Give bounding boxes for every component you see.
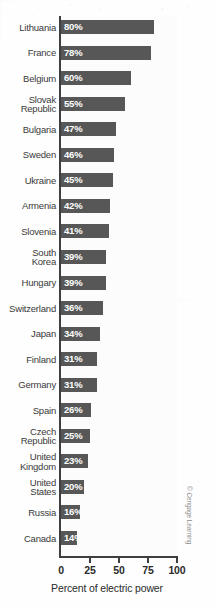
bar: 16% <box>61 505 80 519</box>
bar-row: Hungary39% <box>0 276 214 290</box>
bar-row: Switzerland36% <box>0 301 214 315</box>
bar-row: Lithuania80% <box>0 20 214 34</box>
bar-value-label: 34% <box>64 328 82 340</box>
bar-value-label: 55% <box>64 98 82 110</box>
bar-row: Slovak Republic55% <box>0 97 214 111</box>
bar: 60% <box>61 71 131 85</box>
bar-category-label: Spain <box>0 406 56 416</box>
bar-category-label: Bulgaria <box>0 125 56 135</box>
x-tick-label: 100 <box>162 564 192 576</box>
bar-value-label: 20% <box>64 481 82 493</box>
bar: 31% <box>61 352 97 366</box>
x-tick-label: 50 <box>104 564 134 576</box>
bar-row: Czech Republic25% <box>0 429 214 443</box>
bar: 55% <box>61 97 125 111</box>
bar-value-label: 36% <box>64 302 82 314</box>
bar-chart: Lithuania80%France78%Belgium60%Slovak Re… <box>0 0 214 609</box>
bar: 41% <box>61 224 109 238</box>
bar-category-label: South Korea <box>0 248 56 267</box>
bar: 20% <box>61 480 84 494</box>
y-axis-line <box>59 16 61 557</box>
bar-value-label: 46% <box>64 149 82 161</box>
x-tick-label: 0 <box>46 564 76 576</box>
bar-value-label: 26% <box>64 404 82 416</box>
bar: 39% <box>61 250 106 264</box>
x-tick <box>176 558 178 563</box>
bar-row: Slovenia41% <box>0 224 214 238</box>
bar-row: South Korea39% <box>0 250 214 264</box>
bar-value-label: 41% <box>64 225 82 237</box>
bar-category-label: United States <box>0 478 56 497</box>
bar-value-label: 31% <box>64 353 82 365</box>
bar-category-label: Hungary <box>0 278 56 288</box>
x-tick-label: 25 <box>75 564 105 576</box>
bar: 47% <box>61 122 116 136</box>
bar: 26% <box>61 403 91 417</box>
bar-category-label: Ukraine <box>0 176 56 186</box>
bar-category-label: Belgium <box>0 74 56 84</box>
bar: 36% <box>61 301 103 315</box>
x-axis-title: Percent of electric power <box>0 582 214 594</box>
bar-row: Canada14% <box>0 531 214 545</box>
bar: 23% <box>61 454 88 468</box>
bar: 45% <box>61 173 113 187</box>
bar: 46% <box>61 148 114 162</box>
bar-value-label: 25% <box>64 430 82 442</box>
bar-value-label: 60% <box>64 72 82 84</box>
bar-row: United States20% <box>0 480 214 494</box>
bar: 42% <box>61 199 110 213</box>
bar-value-label: 42% <box>64 200 82 212</box>
bar-row: Russia16% <box>0 505 214 519</box>
bar-value-label: 14% <box>64 532 82 544</box>
bar-row: Belgium60% <box>0 71 214 85</box>
bar: 25% <box>61 429 90 443</box>
bar-row: Germany31% <box>0 378 214 392</box>
bar-value-label: 23% <box>64 455 82 467</box>
bar-category-label: Canada <box>0 534 56 544</box>
bar-category-label: Slovak Republic <box>0 95 56 114</box>
bar-category-label: Armenia <box>0 201 56 211</box>
bar-value-label: 31% <box>64 379 82 391</box>
x-tick <box>89 558 91 563</box>
bar: 34% <box>61 327 100 341</box>
x-tick <box>147 558 149 563</box>
bar-row: Finland31% <box>0 352 214 366</box>
bar-row: Japan34% <box>0 327 214 341</box>
bar-row: Bulgaria47% <box>0 122 214 136</box>
bar-category-label: Japan <box>0 329 56 339</box>
bar-category-label: Russia <box>0 508 56 518</box>
bar-row: Ukraine45% <box>0 173 214 187</box>
bar-value-label: 45% <box>64 174 82 186</box>
bar-category-label: Lithuania <box>0 23 56 33</box>
bar-row: Armenia42% <box>0 199 214 213</box>
bar-category-label: France <box>0 48 56 58</box>
bar-category-label: Czech Republic <box>0 427 56 446</box>
bar-value-label: 78% <box>64 47 82 59</box>
x-tick <box>118 558 120 563</box>
bar-value-label: 47% <box>64 123 82 135</box>
bar-row: Sweden46% <box>0 148 214 162</box>
bar-category-label: Switzerland <box>0 304 56 314</box>
bar-category-label: United Kingdom <box>0 452 56 471</box>
bar-value-label: 16% <box>64 506 82 518</box>
bar: 14% <box>61 531 77 545</box>
bar-value-label: 80% <box>64 21 82 33</box>
bar: 31% <box>61 378 97 392</box>
bar-value-label: 39% <box>64 277 82 289</box>
bar-row: United Kingdom23% <box>0 454 214 468</box>
bar-category-label: Germany <box>0 380 56 390</box>
bar: 78% <box>61 46 151 60</box>
copyright-credit: © Cengage Learning <box>186 486 193 556</box>
bar: 39% <box>61 276 106 290</box>
bar: 80% <box>61 20 154 34</box>
bar-value-label: 39% <box>64 251 82 263</box>
bar-category-label: Slovenia <box>0 227 56 237</box>
bar-category-label: Finland <box>0 355 56 365</box>
x-tick-label: 75 <box>133 564 163 576</box>
bar-row: France78% <box>0 46 214 60</box>
bar-category-label: Sweden <box>0 150 56 160</box>
bar-row: Spain26% <box>0 403 214 417</box>
